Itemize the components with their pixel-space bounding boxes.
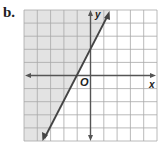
x-axis-label: x: [148, 79, 155, 90]
y-axis-label: y: [94, 9, 101, 20]
coordinate-graph: y x O: [0, 0, 161, 146]
origin-label: O: [80, 76, 89, 88]
